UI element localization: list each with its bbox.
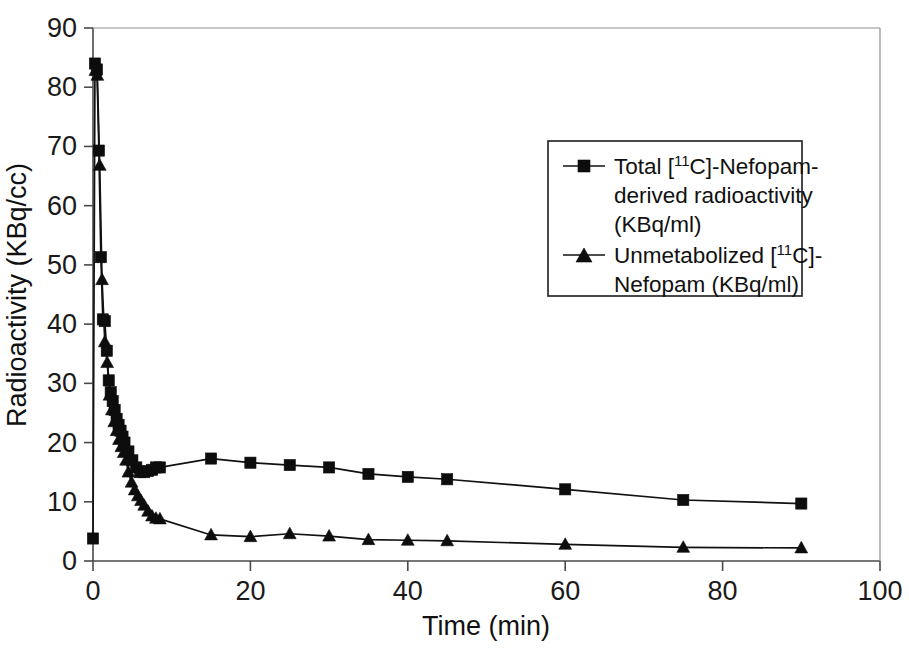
- series-total: [87, 58, 807, 544]
- radioactivity-time-chart: 0102030405060708090 020406080100 Time (m…: [0, 0, 909, 657]
- x-tick-label: 0: [85, 576, 100, 606]
- chart-legend: Total [11C]-Nefopam- derived radioactivi…: [548, 141, 822, 297]
- x-axis-title: Time (min): [422, 611, 550, 641]
- y-tick-label: 90: [47, 13, 77, 43]
- x-axis-ticks: 020406080100: [85, 561, 902, 606]
- data-point-marker-square: [678, 494, 689, 505]
- y-tick-label: 0: [62, 546, 77, 576]
- x-tick-label: 100: [857, 576, 902, 606]
- y-axis-ticks: 0102030405060708090: [47, 13, 93, 576]
- series-group: [87, 58, 807, 553]
- x-tick-label: 40: [393, 576, 423, 606]
- y-tick-label: 70: [47, 131, 77, 161]
- x-tick-label: 80: [708, 576, 738, 606]
- y-tick-label: 40: [47, 309, 77, 339]
- x-tick-label: 60: [550, 576, 580, 606]
- data-point-marker-square: [205, 453, 216, 464]
- y-tick-label: 30: [47, 368, 77, 398]
- data-point-marker-square: [560, 484, 571, 495]
- chart-container: 0102030405060708090 020406080100 Time (m…: [0, 0, 909, 657]
- data-point-marker-square: [442, 474, 453, 485]
- data-point-marker-square: [87, 533, 98, 544]
- y-tick-label: 50: [47, 250, 77, 280]
- x-tick-label: 20: [235, 576, 265, 606]
- data-point-marker-square: [402, 471, 413, 482]
- data-point-marker-triangle: [101, 356, 114, 368]
- data-point-marker-square: [284, 459, 295, 470]
- y-axis-title: Radioactivity (KBq/cc): [2, 163, 32, 427]
- data-point-marker-square: [796, 498, 807, 509]
- data-point-marker-triangle: [283, 527, 296, 539]
- legend-label-total-line2: derived radioactivity: [614, 183, 814, 208]
- data-point-marker-triangle: [98, 335, 111, 347]
- y-tick-label: 10: [47, 487, 77, 517]
- data-point-marker-triangle: [96, 273, 109, 285]
- data-point-marker-square: [324, 462, 335, 473]
- legend-label-total-line3: (KBq/ml): [614, 212, 702, 237]
- data-point-marker-square: [154, 462, 165, 473]
- legend-label-total-line1: Total [11C]-Nefopam-: [614, 152, 818, 179]
- y-tick-label: 20: [47, 428, 77, 458]
- legend-label-unmet-line2: Nefopam (KBq/ml): [614, 272, 799, 297]
- legend-marker-square-icon: [578, 160, 590, 172]
- data-point-marker-square: [245, 457, 256, 468]
- series-path: [93, 64, 801, 539]
- y-tick-label: 80: [47, 72, 77, 102]
- data-point-marker-square: [363, 468, 374, 479]
- y-tick-label: 60: [47, 191, 77, 221]
